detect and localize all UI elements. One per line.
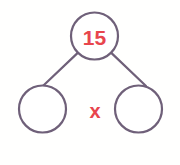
multiplication-operator-symbol: x [89, 100, 100, 122]
number-bond-diagram: 15 x [0, 0, 180, 165]
branch-line-right [111, 53, 146, 86]
node-circle-part-right[interactable] [115, 86, 162, 133]
branch-line-left [43, 53, 78, 86]
diagram-canvas: 15 x [0, 0, 180, 165]
node-label-whole: 15 [83, 26, 107, 49]
node-circle-part-left[interactable] [19, 86, 66, 133]
